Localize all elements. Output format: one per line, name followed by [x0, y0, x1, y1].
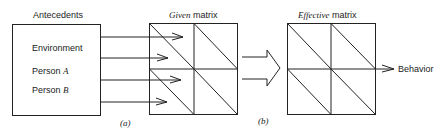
- panel-label-a: (a): [120, 119, 131, 128]
- panel-label-b: (b): [258, 117, 269, 126]
- antecedent-environment: Environment: [32, 44, 83, 53]
- effective-matrix-grid: [288, 24, 376, 115]
- antecedent-person-a: Person A: [32, 67, 69, 76]
- behavior-label: Behavior: [398, 65, 434, 74]
- behavior-arrow: [375, 65, 394, 72]
- antecedents-title: Antecedents: [33, 11, 83, 20]
- antecedent-person-b: Person B: [32, 86, 69, 95]
- transform-block-arrow: [242, 50, 280, 86]
- effective-matrix-title: Effective matrix: [298, 11, 356, 20]
- given-matrix-title: Given matrix: [169, 11, 218, 20]
